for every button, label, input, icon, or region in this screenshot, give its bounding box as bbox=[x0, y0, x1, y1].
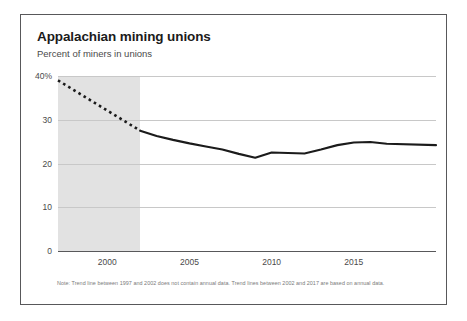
trend-line-interpolated bbox=[58, 80, 140, 130]
x-axis-line bbox=[58, 251, 436, 252]
data-series-layer bbox=[58, 76, 436, 251]
chart-subtitle: Percent of miners in unions bbox=[37, 48, 152, 59]
y-axis-tick-label: 0 bbox=[47, 246, 52, 256]
plot-area: 010203040% 2000200520102015 bbox=[58, 76, 436, 251]
y-axis-tick-label: 10 bbox=[43, 202, 52, 212]
x-axis-tick-label: 2005 bbox=[180, 257, 199, 267]
chart-screenshot: Appalachian mining unions Percent of min… bbox=[0, 0, 467, 321]
x-axis-tick-label: 2000 bbox=[98, 257, 117, 267]
y-axis-tick-label: 40% bbox=[35, 71, 52, 81]
trend-line-annual bbox=[140, 131, 436, 158]
chart-title: Appalachian mining unions bbox=[37, 29, 211, 44]
y-axis-tick-label: 30 bbox=[43, 115, 52, 125]
chart-card: Appalachian mining unions Percent of min… bbox=[20, 14, 447, 305]
y-axis-tick-label: 20 bbox=[43, 159, 52, 169]
chart-footnote: Note: Trend line between 1997 and 2002 d… bbox=[57, 280, 384, 286]
x-axis-tick-label: 2010 bbox=[262, 257, 281, 267]
x-axis-tick-label: 2015 bbox=[344, 257, 363, 267]
